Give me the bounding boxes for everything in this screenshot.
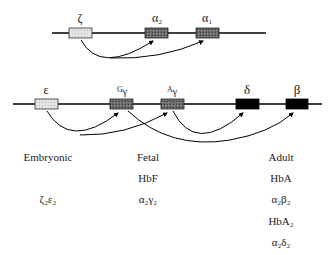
A-gamma-gene-label: Aγ [167, 84, 177, 98]
zeta-gene-label: ζ [78, 12, 83, 24]
adult-hba-name: HbA [270, 172, 291, 184]
adult-hba-chains: α₂β₂ [271, 193, 290, 205]
switch-arrow-epsilon-G-gamma [47, 111, 118, 131]
fetal-hemoglobin-chains: α₂γ₂ [139, 193, 157, 205]
alpha2-gene-box [145, 28, 168, 38]
epsilon-gene-label: ε [43, 84, 48, 96]
fetal-hemoglobin-name: HbF [138, 172, 158, 184]
G-gamma-gene-label: Gγ [117, 84, 127, 98]
delta-gene-label: δ [244, 84, 250, 96]
switch-arrow-gamma-delta [173, 111, 243, 134]
adult-hba2-name: HbA₂ [268, 215, 293, 227]
embryonic-hemoglobin: ζ₂ε₂ [40, 193, 57, 205]
zeta-gene-box [69, 28, 92, 38]
alpha2-gene-label: α2 [152, 12, 162, 28]
beta-gene-label: β [294, 84, 301, 96]
G-gamma-gene-box [110, 99, 133, 109]
stage-fetal-title: Fetal [137, 151, 159, 163]
beta-globin-locus [13, 99, 322, 142]
stage-embryonic-title: Embryonic [24, 151, 73, 163]
switch-arrow-gamma-beta [128, 111, 293, 142]
switch-arrow-zeta-alpha2 [81, 40, 153, 58]
alpha1-gene-box [196, 28, 219, 38]
alpha-globin-locus [52, 28, 266, 58]
stage-adult-title: Adult [268, 151, 293, 163]
beta-gene-box [286, 99, 308, 109]
alpha1-gene-label: α1 [202, 12, 212, 28]
A-gamma-gene-box [161, 99, 184, 109]
switch-arrow-epsilon-A-gamma [80, 113, 167, 135]
adult-hba2-chains: α₂δ₂ [272, 236, 291, 248]
epsilon-gene-box [35, 99, 58, 109]
delta-gene-box [236, 99, 259, 109]
